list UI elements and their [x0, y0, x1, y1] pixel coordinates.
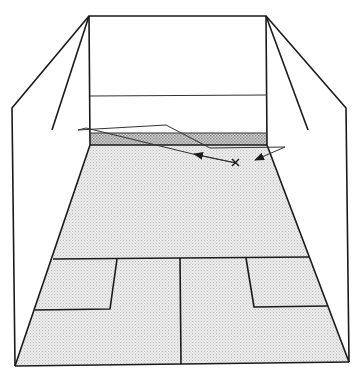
tin	[90, 133, 267, 145]
front-wall-service-line	[90, 95, 267, 96]
half-court-line	[180, 258, 181, 364]
court-floor	[15, 145, 349, 366]
front-wall	[89, 16, 267, 145]
left-wall-inner-line	[52, 16, 89, 130]
right-wall-inner-line	[266, 16, 308, 130]
squash-court-diagram	[0, 0, 361, 378]
